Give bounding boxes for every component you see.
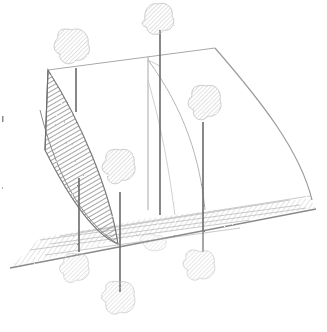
curved-surface-inner bbox=[148, 60, 205, 210]
sketch-svg bbox=[0, 0, 327, 332]
stray-mark bbox=[2, 116, 4, 122]
ground-plane bbox=[10, 196, 316, 268]
tree-middle-canopy bbox=[102, 149, 135, 183]
tree-reflection-center-canopy bbox=[102, 281, 135, 314]
tree-top-center-canopy bbox=[142, 3, 174, 34]
tree-left-canopy bbox=[54, 29, 89, 64]
curved-surface-right bbox=[215, 48, 312, 200]
tree-reflection-left-canopy bbox=[60, 253, 90, 282]
pencil-sketch-artwork bbox=[0, 0, 327, 332]
tree-reflection-right-canopy bbox=[183, 250, 215, 280]
tree-right-canopy bbox=[188, 85, 221, 119]
stray-mark bbox=[2, 187, 3, 189]
tree-trunks bbox=[76, 30, 203, 292]
